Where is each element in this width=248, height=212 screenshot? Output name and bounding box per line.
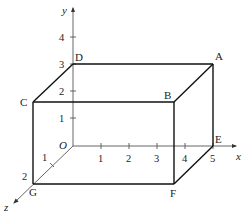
x-axis-label: x xyxy=(235,150,241,162)
z-axis-ticks: 1 2 xyxy=(22,152,54,182)
y-axis-label: y xyxy=(61,4,67,16)
cuboid-edges xyxy=(33,64,213,184)
vertex-label-F: F xyxy=(170,187,176,199)
vertex-label-G: G xyxy=(29,186,37,198)
vertex-label-B: B xyxy=(164,89,171,101)
x-tick-1: 1 xyxy=(98,153,103,164)
y-tick-4: 4 xyxy=(59,32,65,43)
edge-CD xyxy=(33,64,73,102)
edge-BA xyxy=(174,64,213,102)
y-tick-3: 3 xyxy=(59,59,64,70)
vertex-label-C: C xyxy=(20,96,27,108)
z-tick-2: 2 xyxy=(22,171,27,182)
x-tick-5: 5 xyxy=(210,153,215,164)
y-tick-2: 2 xyxy=(59,86,64,97)
x-tick-2: 2 xyxy=(126,153,131,164)
x-tick-3: 3 xyxy=(154,153,159,164)
z-tick-1: 1 xyxy=(42,152,47,163)
vertex-labels: A B C D E F G xyxy=(20,50,223,199)
y-tick-1: 1 xyxy=(59,113,64,124)
z-axis-label: z xyxy=(3,201,9,212)
vertex-label-E: E xyxy=(215,133,222,145)
cuboid-diagram: 1 2 3 4 5 1 2 3 4 1 2 xyxy=(0,0,248,212)
vertex-label-D: D xyxy=(75,51,83,63)
origin-label: O xyxy=(59,139,67,151)
vertex-label-A: A xyxy=(215,50,223,62)
x-tick-4: 4 xyxy=(182,153,188,164)
edge-FE xyxy=(174,146,213,184)
axes: 1 2 3 4 5 1 2 3 4 1 2 xyxy=(3,4,241,212)
